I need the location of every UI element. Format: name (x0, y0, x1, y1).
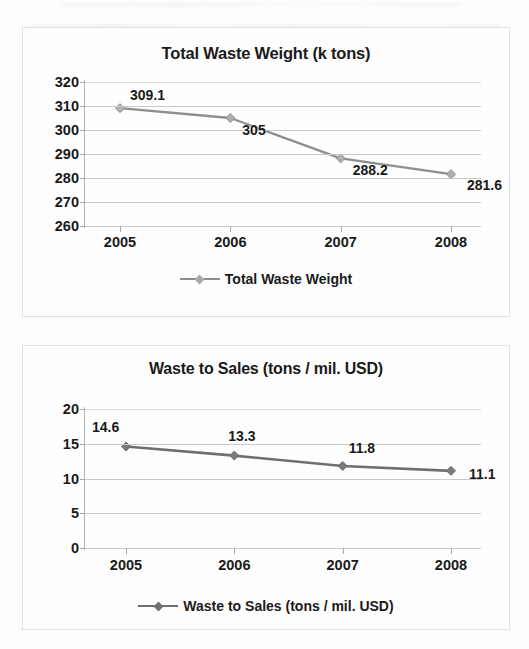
gridline (84, 409, 481, 410)
plot-area: 309.1305288.2281.6 (84, 82, 481, 226)
data-point-label: 13.3 (228, 428, 255, 444)
y-axis-tick-label: 20 (63, 401, 79, 417)
y-axis-tick-label: 290 (55, 146, 79, 162)
y-axis-tick (80, 130, 85, 131)
y-axis-tick (80, 106, 85, 107)
x-axis-tick (451, 226, 452, 232)
y-axis-tick-label: 0 (71, 540, 79, 556)
y-axis-tick (80, 409, 85, 410)
x-axis-tick (120, 226, 121, 232)
x-axis-tick-label: 2008 (435, 557, 467, 573)
y-axis-tick (80, 82, 85, 83)
legend-marker-icon (180, 273, 220, 285)
y-axis-tick (80, 178, 85, 179)
x-axis-tick-label: 2005 (104, 234, 136, 250)
x-axis-tick-label: 2007 (325, 234, 357, 250)
data-point-marker (336, 154, 345, 163)
x-axis-labels: 2005200620072008 (84, 557, 481, 577)
y-axis-tick-label: 280 (55, 170, 79, 186)
gridline (84, 513, 481, 514)
gridline (84, 444, 481, 445)
x-axis-tick-label: 2005 (110, 557, 142, 573)
x-axis-tick-label: 2006 (214, 234, 246, 250)
y-axis-tick (80, 226, 85, 227)
data-point-marker (447, 466, 456, 475)
x-axis-tick (126, 548, 127, 554)
y-axis-tick (80, 548, 85, 549)
data-point-marker (116, 104, 125, 113)
data-point-label: 309.1 (130, 87, 165, 103)
data-point-label: 11.1 (469, 466, 495, 482)
data-point-marker (230, 451, 239, 460)
x-axis-tick (343, 548, 344, 554)
y-axis-tick-label: 270 (55, 194, 79, 210)
y-axis-tick-label: 310 (55, 98, 79, 114)
x-axis-tick (230, 226, 231, 232)
gridline (84, 130, 481, 131)
data-line (126, 447, 451, 471)
legend-marker-icon (138, 600, 178, 612)
chart-panel-waste-to-sales: Waste to Sales (tons / mil. USD) 2015105… (22, 345, 510, 630)
y-axis-tick-label: 15 (63, 436, 79, 452)
gridline (84, 226, 481, 227)
gridline (84, 106, 481, 107)
y-axis-tick-label: 260 (55, 218, 79, 234)
data-point-marker (338, 461, 347, 470)
y-axis-labels: 320310300290280270260 (37, 82, 79, 226)
y-axis-tick-label: 300 (55, 122, 79, 138)
gridline (84, 202, 481, 203)
y-axis-tick (80, 479, 85, 480)
gridline (84, 82, 481, 83)
document-page: Total Waste Weight (k tons) 320310300290… (0, 0, 529, 649)
x-axis-labels: 2005200620072008 (84, 234, 481, 254)
legend-label: Total Waste Weight (225, 271, 352, 287)
chart-panel-total-waste-weight: Total Waste Weight (k tons) 320310300290… (22, 27, 510, 317)
x-axis-tick-label: 2006 (218, 557, 250, 573)
x-axis-tick (234, 548, 235, 554)
legend-label: Waste to Sales (tons / mil. USD) (183, 598, 393, 614)
data-point-marker (226, 114, 235, 123)
y-axis-labels: 20151050 (37, 409, 79, 548)
gridline (84, 548, 481, 549)
data-point-label: 11.8 (349, 440, 375, 456)
chart-title: Total Waste Weight (k tons) (23, 44, 509, 63)
y-axis-tick-label: 320 (55, 74, 79, 90)
gridline (84, 178, 481, 179)
x-axis-tick-label: 2007 (327, 557, 359, 573)
data-point-label: 281.6 (467, 177, 502, 193)
y-axis-tick (80, 513, 85, 514)
gridline (84, 154, 481, 155)
y-axis-tick-label: 10 (63, 471, 79, 487)
data-point-label: 14.6 (92, 419, 119, 435)
data-point-label: 288.2 (353, 162, 388, 178)
y-axis-tick (80, 444, 85, 445)
data-line (120, 108, 451, 174)
x-axis-tick-label: 2008 (435, 234, 467, 250)
x-axis-tick (341, 226, 342, 232)
x-axis-tick (451, 548, 452, 554)
y-axis-tick (80, 202, 85, 203)
y-axis-tick (80, 154, 85, 155)
y-axis-tick-label: 5 (71, 505, 79, 521)
chart-title: Waste to Sales (tons / mil. USD) (23, 360, 509, 378)
scan-artifact-top (60, 2, 460, 7)
plot-area: 14.613.311.811.1 (84, 409, 481, 548)
chart-legend: Waste to Sales (tons / mil. USD) (23, 598, 509, 614)
chart-legend: Total Waste Weight (23, 271, 509, 287)
data-point-label: 305 (242, 122, 265, 138)
gridline (84, 479, 481, 480)
